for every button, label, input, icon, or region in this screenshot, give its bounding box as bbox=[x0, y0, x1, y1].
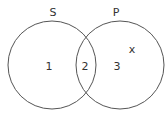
region-3-label: 3 bbox=[114, 61, 121, 72]
venn-diagram bbox=[0, 0, 167, 117]
set-label-p: P bbox=[113, 7, 120, 18]
set-label-s: S bbox=[50, 7, 57, 18]
region-2-label: 2 bbox=[82, 61, 89, 72]
x-marker: x bbox=[129, 44, 136, 55]
region-1-label: 1 bbox=[46, 61, 53, 72]
